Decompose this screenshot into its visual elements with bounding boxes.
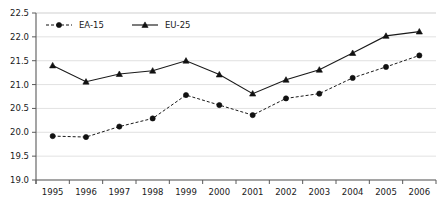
chart-canvas: 19.019.520.020.521.021.522.022.5 1995199… (0, 0, 442, 206)
data-point-ea-15-1996 (83, 134, 88, 139)
data-point-ea-15-2001 (250, 113, 255, 118)
y-tick-label-21.0: 21.0 (10, 80, 29, 90)
x-tick-label-2005: 2005 (375, 187, 397, 197)
x-tick-label-2000: 2000 (209, 187, 231, 197)
data-point-ea-15-2006 (417, 53, 422, 58)
data-point-ea-15-1998 (150, 116, 155, 121)
y-tick-label-20.0: 20.0 (10, 127, 29, 137)
x-tick-label-2002: 2002 (275, 187, 297, 197)
legend-marker-ea-15 (56, 22, 61, 27)
x-tick-label-2004: 2004 (342, 187, 364, 197)
x-tick-label-2001: 2001 (242, 187, 264, 197)
x-tick-label-1997: 1997 (109, 187, 131, 197)
data-point-ea-15-2002 (283, 96, 288, 101)
x-tick-label-1995: 1995 (42, 187, 64, 197)
data-point-ea-15-1997 (117, 124, 122, 129)
y-tick-label-21.5: 21.5 (10, 56, 29, 66)
x-tick-label-1999: 1999 (175, 187, 197, 197)
y-tick-label-20.5: 20.5 (10, 103, 29, 113)
data-point-ea-15-2000 (217, 102, 222, 107)
data-point-ea-15-2004 (350, 75, 355, 80)
x-tick-label-1996: 1996 (75, 187, 97, 197)
y-tick-label-22.0: 22.0 (10, 32, 29, 42)
x-tick-label-2006: 2006 (409, 187, 431, 197)
y-tick-label-19.0: 19.0 (10, 175, 29, 185)
data-point-ea-15-2005 (383, 64, 388, 69)
x-tick-label-1998: 1998 (142, 187, 164, 197)
legend-label-eu-25: EU-25 (165, 20, 190, 30)
line-chart: 19.019.520.020.521.021.522.022.5 1995199… (0, 0, 442, 206)
legend-label-ea-15: EA-15 (79, 20, 104, 30)
x-tick-label-2003: 2003 (309, 187, 331, 197)
data-point-ea-15-1999 (183, 92, 188, 97)
data-point-ea-15-1995 (50, 134, 55, 139)
y-tick-label-22.5: 22.5 (10, 8, 29, 18)
y-tick-label-19.5: 19.5 (10, 151, 29, 161)
data-point-ea-15-2003 (317, 91, 322, 96)
